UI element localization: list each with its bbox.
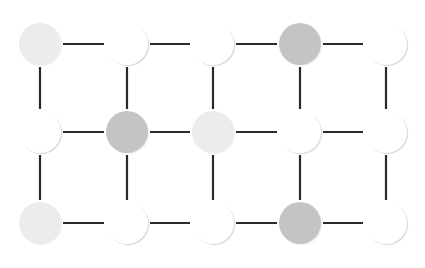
node-white-r1-c0	[19, 111, 62, 154]
node-white-r1-c4	[365, 111, 408, 154]
node-white-r0-c2	[192, 23, 235, 66]
nodes-layer	[19, 23, 408, 245]
node-dark-r2-c3	[279, 202, 322, 245]
node-white-r2-c2	[192, 202, 235, 245]
node-dark-r0-c3	[279, 23, 322, 66]
node-white-r0-c1	[106, 23, 149, 66]
node-dark-r1-c1	[106, 111, 149, 154]
node-white-r1-c3	[279, 111, 322, 154]
grid-graph-diagram	[0, 0, 425, 268]
node-white-r0-c4	[365, 23, 408, 66]
graph-svg	[0, 0, 425, 268]
node-white-r2-c1	[106, 202, 149, 245]
node-light-r2-c0	[19, 202, 62, 245]
node-white-r2-c4	[365, 202, 408, 245]
node-light-r0-c0	[19, 23, 62, 66]
node-light-r1-c2	[192, 111, 235, 154]
